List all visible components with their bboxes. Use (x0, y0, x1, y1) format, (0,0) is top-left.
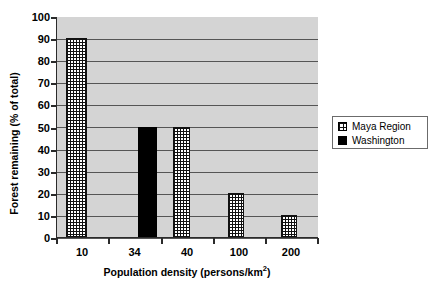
plot-area (56, 17, 318, 238)
y-tick-label: 30 (20, 167, 50, 178)
y-tick-label: 40 (20, 145, 50, 156)
y-tick-label: 90 (20, 34, 50, 45)
bar-maya-200 (281, 215, 297, 237)
x-axis-title-base: Population density (persons/km (104, 266, 263, 278)
bar-maya-10 (66, 38, 87, 237)
y-tick-label: 60 (20, 100, 50, 111)
x-axis-title-tail: ) (267, 266, 271, 278)
x-tick-label: 40 (161, 247, 213, 258)
x-tick-mark (108, 238, 110, 244)
y-tick-label: 10 (20, 211, 50, 222)
legend-item-washington: Washington (338, 134, 427, 147)
y-tick-label: 50 (20, 123, 50, 134)
bar-chart: Forest remaining (% of total) 100 90 80 … (0, 0, 435, 288)
legend-label: Washington (352, 135, 404, 146)
y-tick-label: 80 (20, 56, 50, 67)
x-axis-title: Population density (persons/km2) (56, 264, 318, 278)
y-tick-label: 70 (20, 78, 50, 89)
x-tick-mark (161, 238, 163, 244)
chart-legend: Maya Region Washington (332, 116, 428, 149)
gridline (57, 238, 318, 239)
x-tick-mark (213, 238, 215, 244)
x-tick-label: 100 (213, 247, 265, 258)
bars-layer (57, 17, 318, 237)
legend-item-maya-region: Maya Region (338, 120, 427, 133)
crosshatch-swatch-icon (338, 122, 347, 131)
y-tick-label: 0 (20, 233, 50, 244)
x-tick-mark (56, 238, 58, 244)
x-tick-label: 10 (56, 247, 108, 258)
y-tick-label: 100 (20, 12, 50, 23)
bar-maya-100 (228, 193, 244, 237)
legend-label: Maya Region (352, 121, 411, 132)
bar-maya-40 (173, 127, 190, 238)
x-tick-mark (317, 238, 319, 244)
x-tick-label: 34 (108, 247, 161, 258)
y-tick-label: 20 (20, 189, 50, 200)
bar-washington-34 (138, 127, 157, 238)
black-swatch-icon (338, 136, 347, 145)
x-tick-mark (265, 238, 267, 244)
x-tick-label: 200 (265, 247, 317, 258)
